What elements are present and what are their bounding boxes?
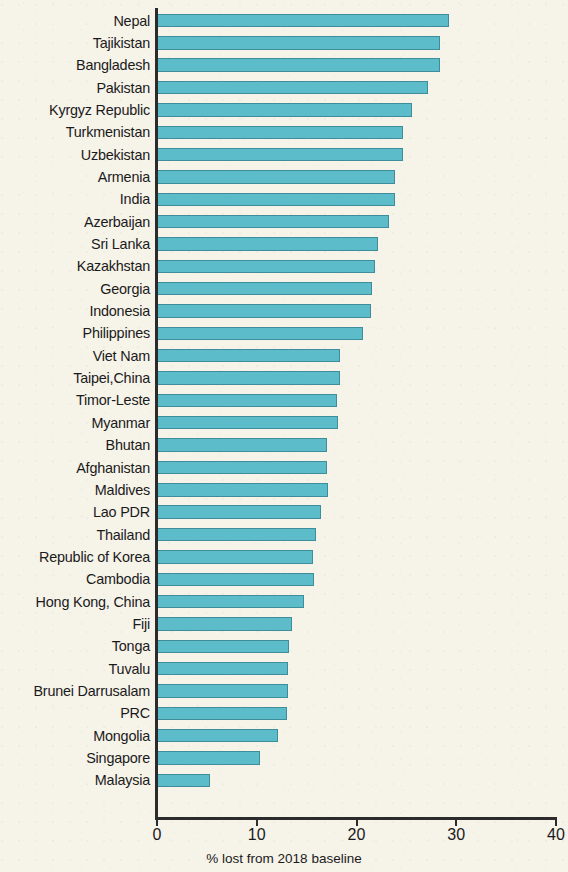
bar [157,774,210,787]
bar [157,193,395,206]
bar-row: Republic of Korea [0,546,568,568]
category-label: Azerbaijan [0,211,157,233]
x-tick-label: 20 [327,826,387,844]
bar [157,394,337,407]
bar-row: Malaysia [0,769,568,791]
bar [157,416,338,429]
bar [157,483,328,496]
category-label: PRC [0,702,157,724]
bar [157,148,403,161]
bar [157,126,403,139]
bar [157,640,289,653]
category-label: Nepal [0,10,157,32]
bar-row: Azerbaijan [0,211,568,233]
bar-row: Brunei Darrusalam [0,680,568,702]
category-label: Malaysia [0,769,157,791]
category-label: Lao PDR [0,501,157,523]
category-label: Brunei Darrusalam [0,680,157,702]
category-label: Sri Lanka [0,233,157,255]
bar-row: Tajikistan [0,32,568,54]
category-label: Kyrgyz Republic [0,99,157,121]
bar-row: PRC [0,702,568,724]
bar [157,170,395,183]
category-label: Armenia [0,166,157,188]
bar-row: Turkmenistan [0,121,568,143]
category-label: Kazakhstan [0,255,157,277]
category-label: Hong Kong, China [0,591,157,613]
category-label: Cambodia [0,568,157,590]
bar-row: Kazakhstan [0,255,568,277]
bar-row: Nepal [0,10,568,32]
bar-row: Armenia [0,166,568,188]
bar [157,684,288,697]
bar-row: Mongolia [0,725,568,747]
bar [157,58,440,71]
category-label: Tajikistan [0,32,157,54]
category-label: Uzbekistan [0,144,157,166]
bar [157,371,340,384]
bar-row: Fiji [0,613,568,635]
bar-row: India [0,188,568,210]
bar-row: Taipei,China [0,367,568,389]
category-label: Singapore [0,747,157,769]
category-label: Thailand [0,524,157,546]
bar [157,595,304,608]
bar [157,304,371,317]
bar-row: Bhutan [0,434,568,456]
bar-row: Hong Kong, China [0,591,568,613]
x-tick [356,817,358,826]
bar-row: Afghanistan [0,457,568,479]
bar [157,36,440,49]
x-tick-label: 10 [227,826,287,844]
category-label: Pakistan [0,77,157,99]
x-tick-label: 0 [127,826,187,844]
bar [157,81,428,94]
x-axis-title: % lost from 2018 baseline [0,851,568,866]
category-label: Myanmar [0,412,157,434]
x-tick-label: 40 [526,826,568,844]
bar [157,215,389,228]
bar [157,260,375,273]
bar-row: Lao PDR [0,501,568,523]
bar [157,461,327,474]
x-tick-label: 30 [426,826,486,844]
category-label: Timor-Leste [0,389,157,411]
bar-row: Indonesia [0,300,568,322]
category-label: Maldives [0,479,157,501]
bar-row: Uzbekistan [0,144,568,166]
bar-row: Kyrgyz Republic [0,99,568,121]
bar [157,237,378,250]
bar [157,505,321,518]
category-label: Taipei,China [0,367,157,389]
bar [157,282,372,295]
bar-row: Pakistan [0,77,568,99]
category-label: Viet Nam [0,345,157,367]
bar [157,438,327,451]
category-label: Georgia [0,278,157,300]
y-axis-line [155,8,158,818]
bar [157,349,340,362]
category-label: Mongolia [0,725,157,747]
bar-row: Singapore [0,747,568,769]
bar-row: Thailand [0,524,568,546]
bar-chart: NepalTajikistanBangladeshPakistanKyrgyz … [0,0,568,872]
category-label: Tuvalu [0,658,157,680]
category-label: Tonga [0,635,157,657]
x-tick [156,817,158,826]
bar [157,550,313,563]
category-label: Philippines [0,322,157,344]
category-label: India [0,188,157,210]
bar-row: Sri Lanka [0,233,568,255]
plot-area: NepalTajikistanBangladeshPakistanKyrgyz … [0,0,568,818]
bar [157,327,363,340]
bar [157,528,316,541]
bar-row: Bangladesh [0,54,568,76]
bar-row: Cambodia [0,568,568,590]
bar [157,751,260,764]
category-label: Bangladesh [0,54,157,76]
bar [157,662,288,675]
bar [157,573,314,586]
x-tick [455,817,457,826]
bar [157,617,292,630]
bar-row: Timor-Leste [0,389,568,411]
